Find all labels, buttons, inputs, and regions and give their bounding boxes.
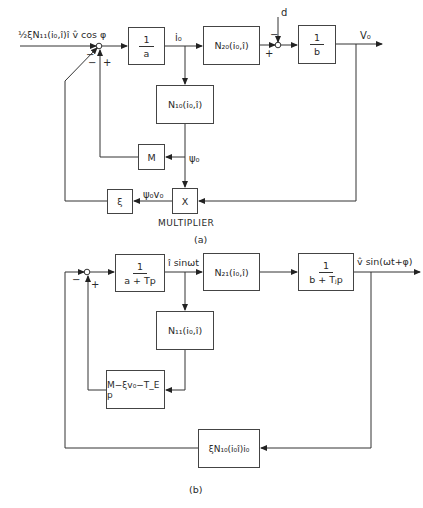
output-v0-label: V₀ [360, 31, 371, 41]
gain-a-tp-numerator: 1 [133, 261, 147, 274]
caption-b: (b) [189, 484, 202, 495]
n20-block: N₂₀(i₀,î) [203, 26, 260, 65]
signal-psi0-label: ψ₀ [189, 154, 200, 164]
gain-1-over-b-plus-tjp-block: 1b + Tⱼp [298, 253, 354, 291]
gain-b-denominator: b [314, 45, 320, 57]
signal-i-sin-label: î sinωt [168, 258, 199, 268]
gain-a-numerator: 1 [139, 34, 153, 47]
m-block: M [138, 144, 165, 170]
n21-block: N₂₁(i₀,î) [203, 253, 260, 291]
signal-i0-label: i₀ [175, 33, 182, 43]
multiplier-label: MULTIPLIER [158, 219, 214, 228]
junction-b-sign-bottom: + [91, 280, 99, 290]
n10-block: N₁₀(i₀,î) [156, 85, 214, 124]
gain-a-tp-denominator: a + Tp [124, 274, 156, 286]
junction2-sign-top: − [270, 30, 278, 40]
junction1-sign-lower-left: − [88, 58, 96, 68]
input-signal-label: ½ξN₁₁(i₀,î)î v̂ cos φ [18, 30, 106, 40]
n11-block: N₁₁(i₀,î) [156, 311, 214, 350]
gain-b-tjp-numerator: 1 [319, 260, 333, 273]
junction-b-sign-left: − [72, 275, 80, 285]
junction2-sign-left: + [265, 49, 273, 59]
gain-b-tjp-denominator: b + Tⱼp [309, 273, 343, 285]
gain-a-denominator: a [144, 47, 150, 59]
gain-b-numerator: 1 [310, 32, 324, 45]
multiplier-block: X [172, 188, 198, 214]
m-xi-v0-te-p-block: M−ξv₀−T_E p [106, 370, 165, 409]
gain-1-over-b-block: 1b [298, 25, 336, 64]
gain-1-over-a-block: 1a [128, 27, 165, 65]
gain-1-over-a-plus-tp-block: 1a + Tp [115, 254, 165, 292]
signal-psi0v0-label: ψ₀v₀ [143, 190, 164, 200]
xi-n10-block: ξN₁₀(i₀î)i₀ [198, 429, 260, 468]
caption-a: (a) [194, 234, 207, 245]
signal-v-sin-label: v̂ sin(ωt+φ) [357, 257, 413, 267]
disturbance-d-label: d [281, 8, 287, 18]
xi-block: ξ [107, 189, 133, 214]
junction1-sign-lower-right: + [103, 58, 111, 68]
